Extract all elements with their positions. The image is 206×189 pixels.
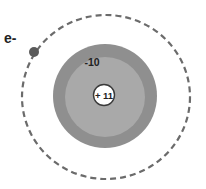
- nucleus-charge-label: + 11: [95, 90, 114, 101]
- atom-diagram: -10 + 11 e-: [0, 0, 206, 189]
- atom-diagram-svg: -10 + 11 e-: [0, 0, 206, 189]
- electron-label: e-: [4, 30, 17, 46]
- inner-charge-label: -10: [84, 56, 99, 68]
- valence-electron-dot: [29, 47, 39, 57]
